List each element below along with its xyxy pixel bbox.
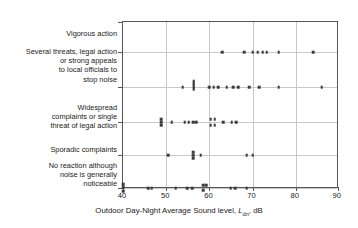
xticklabel-40: 40 xyxy=(110,191,134,200)
ylabel-no-reaction: No reaction although noise is generally … xyxy=(0,161,117,189)
x-axis-title-prefix: Outdoor Day-Night Average Sound level, xyxy=(95,206,238,215)
ylabel-vigorous-action: Vigorous action xyxy=(0,29,117,38)
xticklabel-50: 50 xyxy=(153,191,177,200)
x-axis-title-suffix: , dB xyxy=(249,206,263,215)
ylabel-widespread-complaints: Widespread complaints or single threat o… xyxy=(0,103,117,131)
x-axis-title: Outdoor Day-Night Average Sound level, L… xyxy=(0,206,358,217)
xticklabel-90: 90 xyxy=(325,191,349,200)
ylabel-several-threats: Several threats, legal action or strong … xyxy=(0,47,117,84)
noise-reaction-scatter-figure: Vigorous action Several threats, legal a… xyxy=(0,0,358,228)
xticklabel-70: 70 xyxy=(240,191,264,200)
ylabel-sporadic-complaints: Sporadic complaints xyxy=(0,145,117,154)
xticklabel-60: 60 xyxy=(196,191,220,200)
xticklabel-80: 80 xyxy=(283,191,307,200)
